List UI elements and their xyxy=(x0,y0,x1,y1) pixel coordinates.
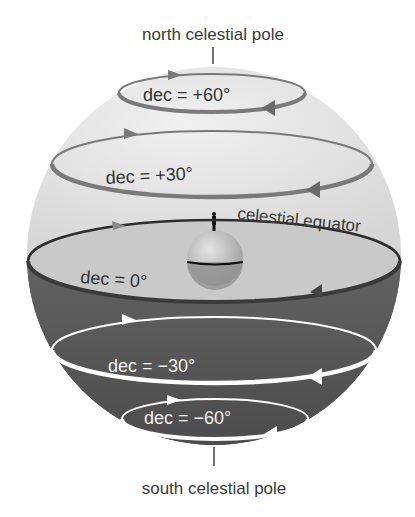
dec-label-minus60: dec = −60° xyxy=(144,408,231,428)
dec-label-minus30: dec = −30° xyxy=(108,356,195,376)
south-pole-label: south celestial pole xyxy=(142,479,287,498)
observer-icon xyxy=(212,212,216,231)
north-pole-label: north celestial pole xyxy=(142,25,284,44)
dec-label-plus60: dec = +60° xyxy=(143,85,230,105)
earth xyxy=(187,230,243,290)
celestial-sphere-diagram: north celestial pole xyxy=(0,0,415,517)
